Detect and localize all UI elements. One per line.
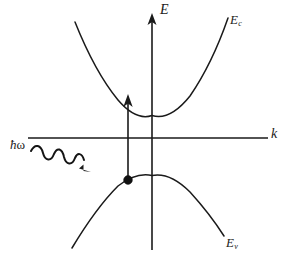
photon-wave-squiggle	[31, 146, 84, 164]
photon-arrow-head	[79, 165, 91, 173]
wavevector-axis-label: k	[271, 127, 277, 141]
band-diagram-figure: E k Ec Ev ħω	[0, 0, 292, 262]
electron-state-dot	[124, 176, 133, 185]
conduction-band-label-subscript: c	[238, 19, 242, 28]
conduction-band-label: Ec	[230, 13, 242, 26]
photon-energy-label: ħω	[10, 138, 25, 151]
energy-axis-label: E	[160, 3, 169, 17]
conduction-band-label-base: E	[230, 12, 238, 27]
omega-symbol: ω	[17, 137, 26, 152]
valence-band-label: Ev	[226, 236, 238, 249]
valence-band-curve	[72, 175, 224, 248]
valence-band-label-subscript: v	[234, 242, 238, 251]
band-diagram-canvas	[0, 0, 292, 262]
valence-band-label-base: E	[226, 235, 234, 250]
